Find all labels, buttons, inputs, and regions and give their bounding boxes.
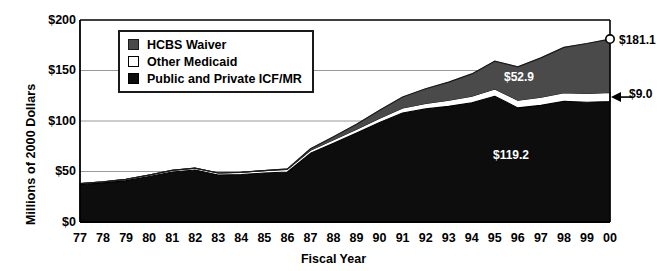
legend-swatch-other-medicaid-icon bbox=[128, 56, 139, 67]
area-chart: Millions of 2000 Dollars $200 $150 $100 … bbox=[0, 0, 667, 271]
x-axis-title: Fiscal Year bbox=[0, 252, 667, 266]
legend-item-other-medicaid: Other Medicaid bbox=[128, 53, 302, 70]
legend-label-hcbs-waiver: HCBS Waiver bbox=[147, 38, 226, 52]
hcbs-waiver-value: $52.9 bbox=[504, 70, 534, 84]
legend-item-icfmr: Public and Private ICF/MR bbox=[128, 70, 302, 87]
other-medicaid-value: $9.0 bbox=[629, 87, 652, 101]
icfmr-value: $119.2 bbox=[493, 148, 529, 162]
legend-item-hcbs-waiver: HCBS Waiver bbox=[128, 36, 302, 53]
legend-label-other-medicaid: Other Medicaid bbox=[147, 55, 237, 69]
legend-swatch-icfmr-icon bbox=[128, 73, 139, 84]
x-tick-00: 00 bbox=[595, 231, 625, 245]
legend: HCBS Waiver Other Medicaid Public and Pr… bbox=[118, 30, 314, 93]
total-value: $181.1 bbox=[619, 33, 656, 47]
legend-label-icfmr: Public and Private ICF/MR bbox=[147, 72, 302, 86]
legend-swatch-hcbs-waiver-icon bbox=[128, 39, 139, 50]
